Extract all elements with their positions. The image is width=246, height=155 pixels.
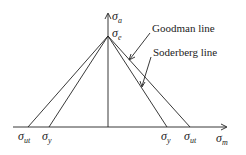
soderberg-label: Soderberg line (153, 46, 217, 58)
x-tick-sigma-ut-left: σut (18, 129, 31, 145)
x-axis-label: σm (216, 131, 228, 147)
goodman-leader (130, 33, 150, 59)
x-tick-sigma-y-left: σy (42, 129, 52, 145)
soderberg-line-left (49, 36, 108, 127)
x-tick-sigma-ut-right: σut (184, 129, 197, 145)
goodman-soderberg-diagram: σa σe Goodman line Soderberg line σut σy… (0, 0, 246, 155)
y-axis-label: σa (112, 9, 122, 25)
x-tick-sigma-y-right: σy (161, 129, 171, 145)
goodman-line-left (28, 36, 108, 127)
goodman-label: Goodman line (152, 22, 215, 34)
apex-label: σe (112, 26, 122, 42)
